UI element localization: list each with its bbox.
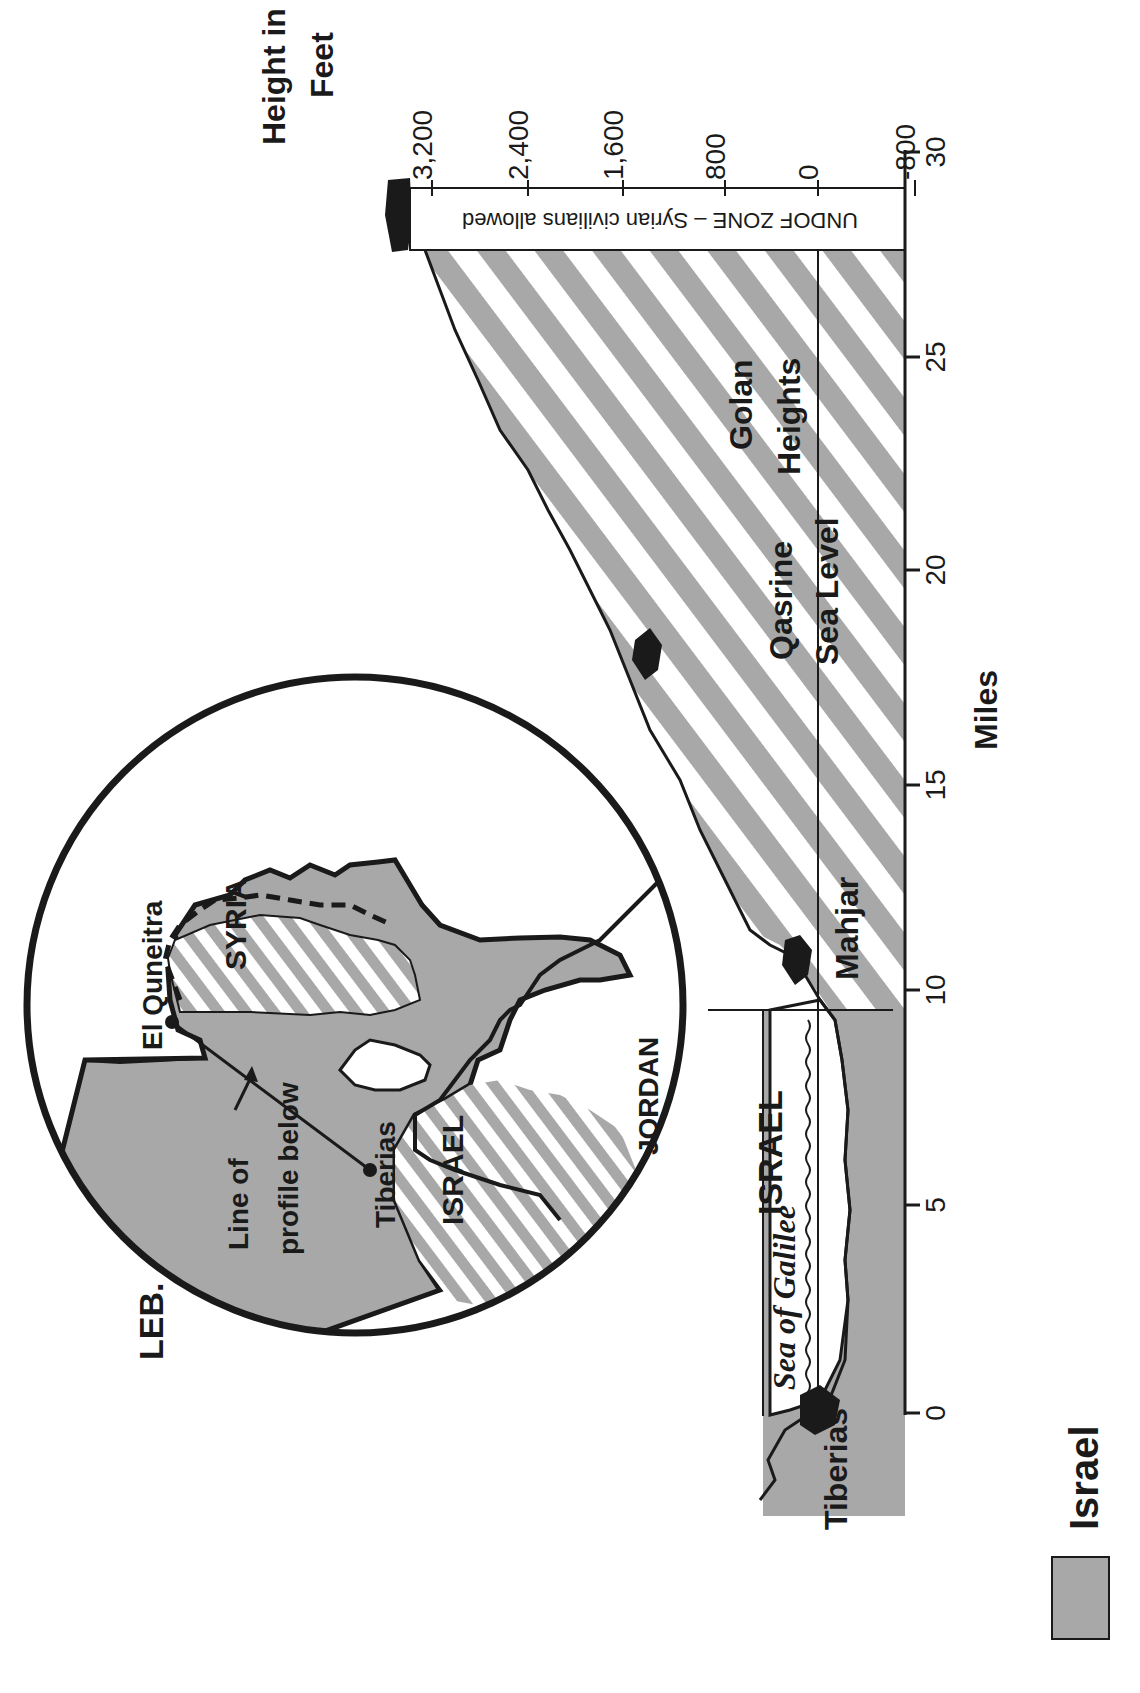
label-profile-below: profile below (273, 1082, 304, 1255)
y-tick-1600: 1,600 (598, 110, 629, 180)
label-tiberias-profile: Tiberias (818, 1408, 854, 1530)
label-qasrine: Qasrine (763, 541, 799, 660)
label-jordan: JORDAN (633, 1037, 664, 1155)
x-tick-25: 25 (920, 341, 951, 372)
legend: Israel (1052, 1425, 1109, 1639)
legend-label-israel: Israel (1062, 1425, 1106, 1530)
x-tick-5: 5 (920, 1197, 951, 1213)
inset-map: LEB. SYRIA El Quneitra Line of profile b… (0, 650, 720, 1370)
label-israel-profile: ISRAEL (751, 1090, 789, 1215)
x-axis-title: Miles (968, 670, 1004, 750)
label-sea-of-galilee: Sea of Galilee (766, 1205, 802, 1390)
label-israel-inset: ISRAEL (436, 1115, 469, 1225)
y-tick-0: 0 (793, 164, 824, 180)
x-tick-20: 20 (920, 554, 951, 585)
label-lebanon: LEB. (132, 1283, 170, 1360)
label-el-quneitra: El Quneitra (137, 900, 168, 1050)
legend-swatch-israel (1052, 1557, 1109, 1639)
x-tick-30: 30 (920, 136, 951, 167)
label-mahjar: Mahjar (829, 877, 865, 980)
town-el-quneitra-profile (385, 178, 412, 252)
label-tiberias-inset: Tiberias (370, 1121, 401, 1228)
label-golan: Golan (723, 359, 759, 450)
label-heights: Heights (771, 358, 807, 475)
y-tick-minus-800: -800 (890, 124, 921, 180)
y-axis-title-line1: Height in (256, 8, 292, 145)
label-line-of: Line of (223, 1158, 254, 1250)
y-tick-800: 800 (700, 133, 731, 180)
y-tick-2400: 2,400 (503, 110, 534, 180)
x-axis-ticks (905, 152, 920, 1413)
x-tick-10: 10 (920, 974, 951, 1005)
y-axis-title-line2: Feet (304, 32, 340, 98)
undof-zone-label: UNDOF ZONE – Syrian civilians allowed (462, 208, 858, 233)
label-syria: SYRIA (219, 878, 252, 970)
x-tick-0: 0 (920, 1405, 951, 1421)
y-tick-3200: 3,200 (407, 110, 438, 180)
label-sea-level: Sea Level (809, 517, 845, 665)
golan-heights-figure: LEB. SYRIA El Quneitra Line of profile b… (0, 0, 1140, 1693)
x-tick-15: 15 (920, 769, 951, 800)
